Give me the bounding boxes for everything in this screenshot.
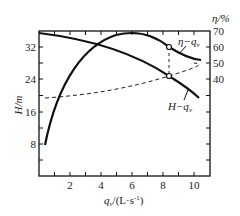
y-left-tick-32: 32	[25, 41, 36, 53]
x-tick-8: 8	[160, 179, 166, 191]
x-axis-title: qv/(L·s-1)	[104, 194, 144, 208]
y-left-tick-16: 16	[25, 106, 37, 118]
y-left-tick-8: 8	[31, 138, 37, 150]
pump-performance-chart: η−qv H−qv 8 16 24 32 40 50 60 70 2 4 6 8…	[0, 0, 240, 216]
efficiency-point-marker	[167, 45, 172, 50]
eta-label-leader	[179, 46, 186, 54]
x-tick-6: 6	[129, 179, 135, 191]
y-right-tick-40: 40	[213, 73, 225, 85]
operating-point-marker	[167, 74, 172, 79]
h-label-leader	[184, 90, 188, 100]
y-left-tick-24: 24	[25, 73, 37, 85]
y-right-tick-70: 70	[213, 25, 225, 37]
y-axis-right-title: η/%	[212, 12, 230, 24]
x-tick-2: 2	[67, 179, 73, 191]
eta-q-label: η−qv	[178, 35, 200, 49]
y-axis-left-title: H/m	[12, 95, 24, 115]
y-right-tick-60: 60	[213, 41, 225, 53]
h-q-label: H−qv	[167, 100, 193, 114]
x-tick-10: 10	[189, 179, 201, 191]
x-tick-4: 4	[98, 179, 104, 191]
y-right-tick-50: 50	[213, 57, 225, 69]
eta-q-curve	[45, 33, 201, 145]
